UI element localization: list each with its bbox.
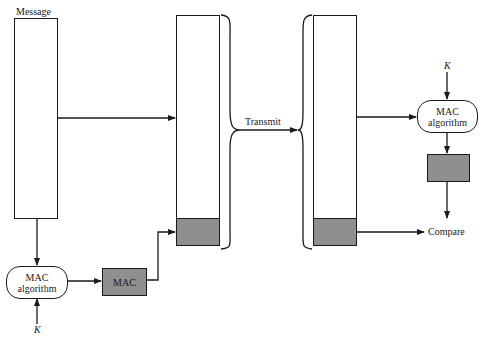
- receiver-key-label: K: [444, 60, 451, 71]
- receiver-message-block: [313, 15, 357, 246]
- receiver-appended-mac: [313, 218, 357, 246]
- receiver-mac-algorithm-line1: MAC: [436, 106, 459, 117]
- mac-label: MAC: [113, 277, 136, 288]
- sender-key-label: K: [34, 324, 41, 335]
- sender-mac-algorithm-line2: algorithm: [18, 283, 57, 294]
- connector-lines: [0, 0, 483, 343]
- receiver-mac-algorithm: MAC algorithm: [417, 100, 478, 133]
- transmit-label: Transmit: [245, 116, 281, 127]
- sender-mac-algorithm: MAC algorithm: [6, 266, 68, 299]
- message-block: [14, 18, 58, 219]
- receiver-mac-algorithm-line2: algorithm: [428, 117, 467, 128]
- sender-appended-mac: [176, 218, 220, 246]
- message-label: Message: [16, 6, 51, 17]
- computed-mac-box: [427, 154, 470, 182]
- mac-box: MAC: [102, 268, 147, 296]
- sender-message-block: [176, 15, 220, 246]
- compare-label: Compare: [428, 226, 465, 237]
- sender-mac-algorithm-line1: MAC: [26, 272, 49, 283]
